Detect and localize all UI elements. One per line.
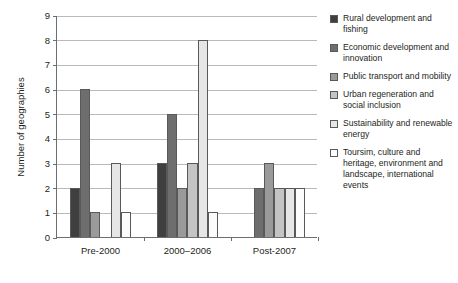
y-axis-tick-mark bbox=[53, 139, 57, 140]
y-axis-tick-mark bbox=[53, 238, 57, 239]
legend-item-label: Economic development and innovation bbox=[343, 42, 456, 64]
plot-area: 0123456789Pre-20002000–2006Post-2007 bbox=[56, 16, 317, 238]
y-axis-tick-label: 0 bbox=[45, 233, 50, 243]
x-axis-tick-label: Post-2007 bbox=[253, 245, 296, 256]
legend-item: Economic development and innovation bbox=[330, 42, 456, 64]
legend-item-label: Rural development and fishing bbox=[343, 13, 456, 35]
x-axis-tick-mark bbox=[231, 237, 232, 241]
bar bbox=[157, 163, 167, 237]
legend-item-label: Toursim, culture and heritage, environme… bbox=[343, 147, 456, 191]
x-axis-tick-mark bbox=[144, 237, 145, 241]
bar bbox=[198, 40, 208, 237]
bar bbox=[70, 188, 80, 237]
legend-item-label: Public transport and mobility bbox=[343, 71, 451, 82]
legend-item: Sustainability and renewable energy bbox=[330, 118, 456, 140]
bar bbox=[177, 188, 187, 237]
legend-item-label: Urban regeneration and social inclusion bbox=[343, 89, 456, 111]
legend-item: Public transport and mobility bbox=[330, 71, 456, 82]
plot-wrapper: 0123456789Pre-20002000–2006Post-2007 bbox=[56, 16, 317, 238]
bar bbox=[285, 188, 295, 237]
legend-item-label: Sustainability and renewable energy bbox=[343, 118, 456, 140]
x-axis-tick-label: 2000–2006 bbox=[164, 245, 212, 256]
bar bbox=[121, 212, 131, 237]
y-axis-tick-label: 9 bbox=[45, 11, 50, 21]
y-axis-tick-mark bbox=[53, 164, 57, 165]
y-axis-tick-label: 4 bbox=[45, 135, 50, 145]
y-axis-tick-mark bbox=[53, 213, 57, 214]
y-axis-label-host: Number of geographies bbox=[14, 16, 28, 238]
y-axis-tick-label: 7 bbox=[45, 61, 50, 71]
bar bbox=[90, 212, 100, 237]
y-axis-tick-mark bbox=[53, 114, 57, 115]
x-axis-tick-mark bbox=[318, 237, 319, 241]
y-axis-tick-mark bbox=[53, 90, 57, 91]
legend-swatch-icon bbox=[330, 91, 338, 99]
y-axis-tick-mark bbox=[53, 188, 57, 189]
y-axis-tick-label: 2 bbox=[45, 184, 50, 194]
bar bbox=[167, 114, 177, 237]
y-axis-tick-label: 1 bbox=[45, 209, 50, 219]
bar bbox=[264, 163, 274, 237]
bar-chart-figure: Number of geographies 0123456789Pre-2000… bbox=[0, 0, 458, 283]
y-axis-tick-mark bbox=[53, 40, 57, 41]
y-axis-tick-mark bbox=[53, 16, 57, 17]
legend-item: Toursim, culture and heritage, environme… bbox=[330, 147, 456, 191]
bar bbox=[208, 212, 218, 237]
y-axis-tick-label: 6 bbox=[45, 85, 50, 95]
y-axis-tick-label: 5 bbox=[45, 110, 50, 120]
bar bbox=[274, 188, 284, 237]
legend-swatch-icon bbox=[330, 149, 338, 157]
y-axis-tick-label: 3 bbox=[45, 159, 50, 169]
bar-group bbox=[70, 16, 131, 237]
chart-legend: Rural development and fishingEconomic de… bbox=[330, 13, 456, 198]
bar-group bbox=[244, 16, 305, 237]
legend-swatch-icon bbox=[330, 44, 338, 52]
bar-group bbox=[157, 16, 218, 237]
y-axis-tick-mark bbox=[53, 65, 57, 66]
legend-item: Rural development and fishing bbox=[330, 13, 456, 35]
legend-item: Urban regeneration and social inclusion bbox=[330, 89, 456, 111]
legend-swatch-icon bbox=[330, 73, 338, 81]
y-axis-tick-label: 8 bbox=[45, 36, 50, 46]
bar bbox=[295, 188, 305, 237]
bar bbox=[187, 163, 197, 237]
bar bbox=[111, 163, 121, 237]
bar bbox=[254, 188, 264, 237]
legend-swatch-icon bbox=[330, 15, 338, 23]
y-axis-label: Number of geographies bbox=[15, 77, 26, 176]
x-axis-tick-label: Pre-2000 bbox=[81, 245, 120, 256]
legend-swatch-icon bbox=[330, 120, 338, 128]
bar bbox=[80, 89, 90, 237]
